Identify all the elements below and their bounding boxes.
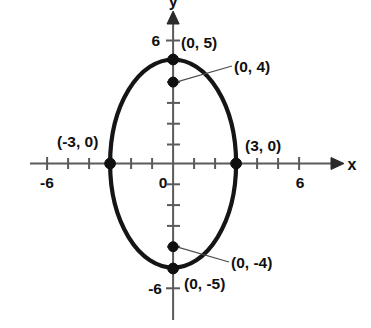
y-tick-label-6: 6 [151, 32, 160, 49]
x-axis-arrowhead [331, 158, 344, 170]
point-label-bottom-vertex: (0, -5) [184, 275, 225, 292]
leader-line-upper-focus [176, 66, 232, 82]
y-tick-label--6: -6 [148, 280, 162, 297]
ellipse-graph-figure: x y -6 6 6 -6 0 (0, 5) (0, 4) (-3, 0) (3… [0, 0, 371, 328]
point-label-left-vertex: (-3, 0) [57, 133, 98, 150]
point-label-top-vertex: (0, 5) [181, 34, 217, 51]
point-bottom-vertex [168, 263, 179, 274]
point-label-upper-focus: (0, 4) [234, 58, 270, 75]
point-lower-focus [168, 242, 178, 252]
point-label-lower-focus: (0, -4) [231, 254, 272, 271]
point-left-vertex [105, 158, 116, 169]
leader-line-lower-focus [176, 247, 229, 262]
x-axis-label: x [348, 156, 357, 173]
coordinate-plane-svg: x y -6 6 6 -6 0 (0, 5) (0, 4) (-3, 0) (3… [0, 0, 371, 328]
point-top-vertex [168, 54, 179, 65]
origin-label: 0 [159, 174, 168, 191]
point-upper-focus [168, 77, 178, 87]
y-axis-arrowhead [167, 11, 179, 24]
x-tick-label-6: 6 [296, 174, 305, 191]
x-axis-group [30, 157, 344, 170]
point-label-right-vertex: (3, 0) [245, 137, 281, 154]
point-right-vertex [231, 158, 242, 169]
x-tick-label--6: -6 [40, 174, 54, 191]
y-axis-label: y [169, 0, 178, 10]
